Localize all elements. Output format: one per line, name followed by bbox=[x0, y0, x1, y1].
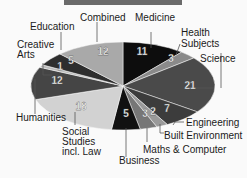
value-science: 21 bbox=[184, 80, 196, 91]
value-education: 5 bbox=[68, 55, 74, 66]
value-social-studies: 18 bbox=[75, 101, 87, 112]
pie-chart: 11 3 21 7 2 3 5 18 12 1 5 12 Combined Me… bbox=[0, 0, 247, 178]
label-science: Science bbox=[200, 53, 236, 64]
value-combined: 12 bbox=[97, 46, 109, 57]
label-health-2: Subjects bbox=[181, 38, 219, 49]
label-built-environment: Built Environment bbox=[164, 130, 243, 141]
label-maths-computer: Maths & Computer bbox=[143, 144, 227, 155]
value-engineering: 7 bbox=[164, 103, 170, 114]
value-humanities: 12 bbox=[51, 75, 63, 86]
label-social-3: incl. Law bbox=[62, 146, 102, 157]
label-combined: Combined bbox=[80, 12, 126, 23]
label-engineering: Engineering bbox=[186, 117, 239, 128]
value-maths-computer: 3 bbox=[142, 108, 148, 119]
value-business: 5 bbox=[123, 108, 129, 119]
label-humanities: Humanities bbox=[16, 112, 66, 123]
label-creative-2: Arts bbox=[17, 49, 35, 60]
label-health-1: Health bbox=[181, 27, 210, 38]
label-medicine: Medicine bbox=[135, 12, 175, 23]
value-creative-arts: 1 bbox=[57, 61, 63, 72]
value-medicine: 11 bbox=[137, 46, 148, 57]
value-built-environment: 2 bbox=[150, 106, 156, 117]
value-health-subjects: 3 bbox=[168, 53, 174, 64]
label-education: Education bbox=[30, 21, 74, 32]
label-business: Business bbox=[119, 155, 160, 166]
